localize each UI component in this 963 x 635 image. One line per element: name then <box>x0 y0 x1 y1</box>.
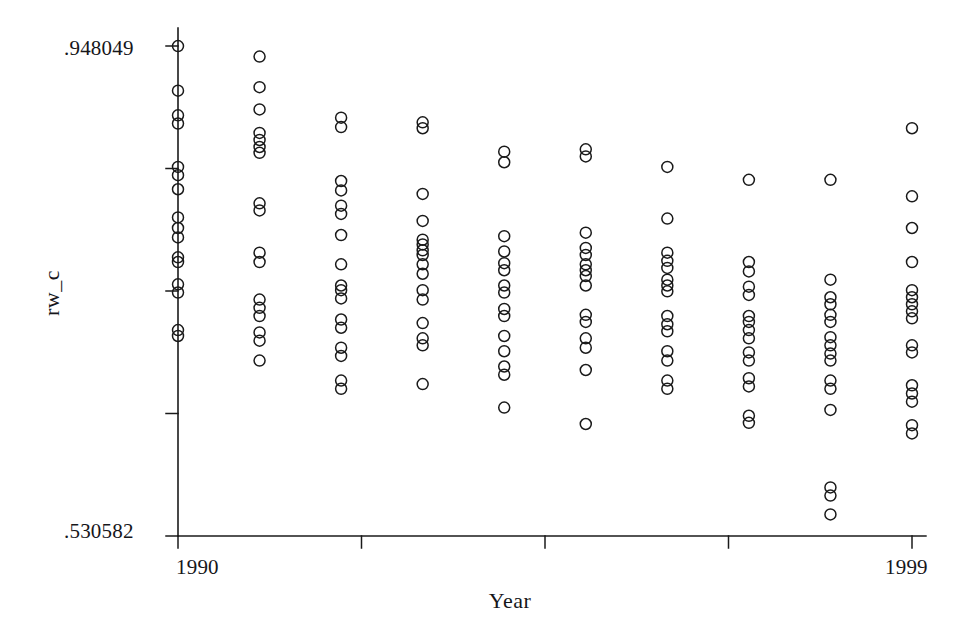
data-point <box>417 318 428 329</box>
data-point <box>662 213 673 224</box>
scatter-plot-figure: .948049 .530582 1990 1999 rw_c Year <box>0 0 963 635</box>
data-point <box>907 257 918 268</box>
data-points <box>173 41 918 520</box>
data-point <box>580 316 591 327</box>
data-point <box>662 383 673 394</box>
data-point <box>499 369 510 380</box>
data-point <box>743 417 754 428</box>
data-point <box>907 428 918 439</box>
data-point <box>825 174 836 185</box>
data-point <box>825 274 836 285</box>
x-axis-max-tick-label: 1999 <box>885 555 928 580</box>
axis-ticks <box>166 46 912 548</box>
data-point <box>254 82 265 93</box>
data-point <box>499 311 510 322</box>
data-point <box>499 246 510 257</box>
data-point <box>499 346 510 357</box>
data-point <box>417 379 428 390</box>
data-point <box>336 350 347 361</box>
data-point <box>743 289 754 300</box>
data-point <box>662 161 673 172</box>
data-point <box>254 51 265 62</box>
data-point <box>254 355 265 366</box>
x-axis-title: Year <box>450 588 570 614</box>
x-axis-min-tick-label: 1990 <box>176 555 219 580</box>
y-axis-min-tick-label: .530582 <box>64 519 134 544</box>
data-point <box>499 157 510 168</box>
axis-lines <box>178 28 926 536</box>
data-point <box>580 151 591 162</box>
data-point <box>743 355 754 366</box>
data-point <box>499 265 510 276</box>
data-point <box>254 104 265 115</box>
data-point <box>743 381 754 392</box>
data-point <box>336 259 347 270</box>
data-point <box>662 326 673 337</box>
data-point <box>417 188 428 199</box>
plot-canvas <box>0 0 963 635</box>
y-axis-title: rw_c <box>39 233 65 353</box>
data-point <box>336 383 347 394</box>
data-point <box>336 293 347 304</box>
data-point <box>662 262 673 273</box>
data-point <box>580 365 591 376</box>
data-point <box>825 404 836 415</box>
data-point <box>417 215 428 226</box>
data-point <box>825 355 836 366</box>
data-point <box>499 330 510 341</box>
data-point <box>825 490 836 501</box>
data-point <box>336 230 347 241</box>
data-point <box>743 333 754 344</box>
data-point <box>254 205 265 216</box>
data-point <box>825 299 836 310</box>
data-point <box>825 316 836 327</box>
data-point <box>336 208 347 219</box>
data-point <box>580 419 591 430</box>
data-point <box>499 402 510 413</box>
data-point <box>907 123 918 134</box>
data-point <box>907 347 918 358</box>
y-axis-max-tick-label: .948049 <box>64 36 134 61</box>
data-point <box>254 335 265 346</box>
data-point <box>907 222 918 233</box>
data-point <box>254 311 265 322</box>
data-point <box>907 191 918 202</box>
data-point <box>743 174 754 185</box>
data-point <box>907 313 918 324</box>
data-point <box>499 146 510 157</box>
data-point <box>825 383 836 394</box>
data-point <box>499 287 510 298</box>
data-point <box>825 509 836 520</box>
data-point <box>580 227 591 238</box>
data-point <box>336 322 347 333</box>
data-point <box>907 396 918 407</box>
data-point <box>417 340 428 351</box>
data-point <box>499 231 510 242</box>
